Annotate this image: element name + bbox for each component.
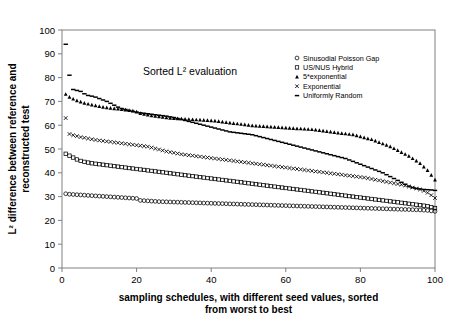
x-axis-title-line1: sampling schedules, with different seed …: [119, 292, 379, 303]
y-axis-tick-label: 90: [44, 48, 55, 59]
legend-item: US/NUS Hybrid: [295, 63, 353, 72]
legend-item: Sinusodial Poisson Gap: [295, 54, 379, 63]
legend-item: 5*exponential: [295, 72, 347, 81]
legend-item: Uniformly Random: [295, 91, 363, 100]
x-axis-tick-label: 0: [59, 274, 64, 285]
x-axis-tick-label: 40: [206, 274, 217, 285]
x-axis-tick-label: 60: [281, 274, 292, 285]
legend-item: Exponential: [295, 82, 341, 91]
chart-title: Sorted L² evaluation: [143, 65, 237, 77]
svg-text:reconstructed test: reconstructed test: [20, 105, 31, 193]
x-axis-tick-label: 80: [355, 274, 366, 285]
legend-label: Uniformly Random: [303, 91, 363, 100]
y-axis-title-line1: L² difference between reference and: [7, 63, 18, 234]
legend-label: Sinusodial Poisson Gap: [303, 54, 379, 63]
x-axis-tick-label: 20: [131, 274, 142, 285]
x-axis-tick-label: 100: [427, 274, 443, 285]
plot-frame: [62, 30, 435, 268]
svg-text:L² difference between referenc: L² difference between reference and: [7, 63, 18, 234]
y-axis-tick-label: 30: [44, 191, 55, 202]
y-axis-tick-label: 100: [39, 25, 55, 36]
y-axis-tick-label: 70: [44, 96, 55, 107]
y-axis-tick-label: 50: [44, 144, 55, 155]
y-axis-title-line2: reconstructed test: [20, 105, 31, 193]
legend-label: 5*exponential: [303, 72, 347, 81]
y-axis-tick-label: 80: [44, 72, 55, 83]
chart-figure: 0102030405060708090100020406080100sampli…: [0, 0, 450, 330]
y-axis-tick-label: 0: [50, 263, 55, 274]
l2-evaluation-chart: 0102030405060708090100020406080100sampli…: [0, 0, 450, 330]
y-axis-tick-label: 20: [44, 215, 55, 226]
legend-label: US/NUS Hybrid: [303, 63, 353, 72]
y-axis-tick-label: 60: [44, 120, 55, 131]
legend-label: Exponential: [303, 82, 341, 91]
y-axis-tick-label: 10: [44, 239, 55, 250]
x-axis-title-line2: from worst to best: [205, 304, 293, 315]
y-axis-tick-label: 40: [44, 167, 55, 178]
